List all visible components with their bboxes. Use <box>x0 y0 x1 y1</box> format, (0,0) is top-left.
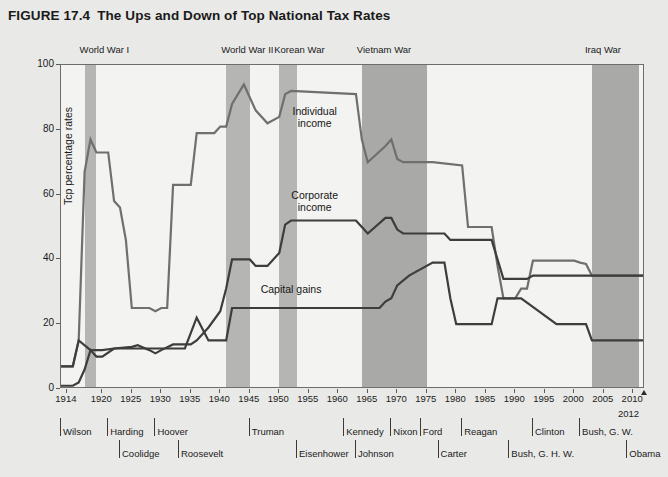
series-annotation-line: income <box>291 201 338 213</box>
x-axis-tick-mark <box>337 389 338 393</box>
y-axis-tick-label: 60 <box>28 188 54 199</box>
president-tick <box>420 418 421 436</box>
figure-root: FIGURE 17.4The Ups and Down of Top Natio… <box>0 0 668 477</box>
series-annotation-line: income <box>292 117 336 129</box>
president-tick <box>296 440 297 458</box>
x-axis-tick-mark <box>426 389 427 393</box>
series-annotation-individual-income: Individualincome <box>292 105 336 129</box>
x-axis-tick-mark <box>101 389 102 393</box>
president-label-truman: Truman <box>252 426 284 437</box>
president-label-wilson: Wilson <box>63 426 92 437</box>
x-axis-end-arrow <box>641 390 647 395</box>
president-label-reagan: Reagan <box>464 426 497 437</box>
x-axis-tick-mark <box>308 389 309 393</box>
president-tick <box>579 418 580 436</box>
series-annotation-corporate-income: Corporateincome <box>291 189 338 213</box>
y-axis-tick-label: 20 <box>28 317 54 328</box>
president-tick <box>60 418 61 436</box>
x-axis-tick-mark <box>219 389 220 393</box>
president-label-nixon: Nixon <box>393 426 417 437</box>
series-line-corporate-income <box>61 218 644 386</box>
y-axis-tick-mark <box>56 194 60 195</box>
president-tick <box>390 418 391 436</box>
chart-plot-area: IndividualincomeCorporateincomeCapital g… <box>60 64 644 388</box>
president-tick <box>438 440 439 458</box>
y-axis-tick-label: 40 <box>28 252 54 263</box>
war-label-world-war-ii: World War II <box>221 44 273 55</box>
president-label-johnson: Johnson <box>358 448 394 459</box>
war-label-vietnam-war: Vietnam War <box>357 44 411 55</box>
president-label-hoover: Hoover <box>157 426 188 437</box>
x-axis-end-label: 2012 <box>618 408 639 419</box>
war-label-iraq-war: Iraq War <box>585 44 621 55</box>
series-annotation-line: Individual <box>292 105 336 117</box>
x-axis-tick-mark <box>485 389 486 393</box>
x-axis-tick-mark <box>190 389 191 393</box>
y-axis-tick-mark <box>56 129 60 130</box>
x-axis-tick-mark <box>544 389 545 393</box>
war-label-world-war-i: World War I <box>80 44 130 55</box>
x-axis-tick-mark <box>278 389 279 393</box>
y-axis-tick-label: 100 <box>28 58 54 69</box>
president-label-ford: Ford <box>423 426 443 437</box>
x-axis-tick-mark <box>603 389 604 393</box>
series-annotation-line: Corporate <box>291 189 338 201</box>
y-axis-tick-mark <box>56 323 60 324</box>
x-axis-tick-mark <box>396 389 397 393</box>
x-axis-tick-mark <box>131 389 132 393</box>
x-axis-tick-mark <box>160 389 161 393</box>
president-tick <box>626 440 627 458</box>
y-axis-label: Tcp percentage rates <box>62 76 74 236</box>
figure-number: FIGURE 17.4 <box>8 8 90 23</box>
president-label-clinton: Clinton <box>535 426 565 437</box>
president-tick <box>178 440 179 458</box>
president-tick <box>119 440 120 458</box>
president-tick <box>355 440 356 458</box>
president-label-obama: Obama <box>629 448 660 459</box>
president-tick <box>107 418 108 436</box>
president-label-bush-g-w-: Bush, G. W. <box>582 426 633 437</box>
president-tick <box>508 440 509 458</box>
president-tick <box>249 418 250 436</box>
president-label-kennedy: Kennedy <box>346 426 384 437</box>
x-axis-tick-mark <box>367 389 368 393</box>
president-label-carter: Carter <box>441 448 467 459</box>
president-label-roosevelt: Roosevelt <box>181 448 223 459</box>
y-axis-tick-mark <box>56 258 60 259</box>
president-label-eisenhower: Eisenhower <box>299 448 349 459</box>
president-tick <box>461 418 462 436</box>
x-axis-tick-mark <box>514 389 515 393</box>
president-label-coolidge: Coolidge <box>122 448 160 459</box>
series-annotation-line: Capital gains <box>261 283 322 295</box>
figure-title-text: The Ups and Down of Top National Tax Rat… <box>97 8 390 23</box>
x-axis-tick-mark <box>66 389 67 393</box>
x-axis-tick-mark <box>573 389 574 393</box>
president-tick <box>343 418 344 436</box>
president-label-harding: Harding <box>110 426 143 437</box>
x-axis-tick-label: 1914 <box>49 393 83 404</box>
president-tick <box>154 418 155 436</box>
y-axis-tick-mark <box>56 64 60 65</box>
y-axis-tick-mark <box>56 388 60 389</box>
president-label-bush-g-h-w-: Bush, G. H. W. <box>511 448 574 459</box>
x-axis-tick-mark <box>455 389 456 393</box>
figure-title: FIGURE 17.4The Ups and Down of Top Natio… <box>8 8 390 23</box>
y-axis-tick-label: 80 <box>28 123 54 134</box>
series-annotation-capital-gains: Capital gains <box>261 283 322 295</box>
president-tick <box>532 418 533 436</box>
series-lines <box>61 65 644 388</box>
y-axis-tick-label: 0 <box>28 382 54 393</box>
x-axis-tick-mark <box>249 389 250 393</box>
x-axis-tick-mark <box>632 389 633 393</box>
war-label-korean-war: Korean War <box>274 44 324 55</box>
